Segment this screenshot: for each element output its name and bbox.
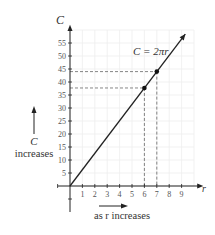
svg-text:as r increases: as r increases [94, 210, 150, 221]
y-tick-label: 5 [62, 169, 66, 178]
grid [70, 30, 194, 186]
r-increases-annotation: as r increases [94, 204, 150, 222]
y-tick-label: 45 [58, 65, 66, 74]
y-tick-label: 30 [58, 104, 66, 113]
circumference-chart: 123456789510152025303540455055 C r C = 2… [0, 0, 215, 235]
x-tick-label: 4 [118, 190, 122, 199]
y-tick-label: 40 [58, 78, 66, 87]
y-axis-arrow-icon [68, 25, 73, 31]
arrow-right-icon [121, 204, 128, 209]
equation-label: C = 2πr [133, 45, 169, 57]
y-tick-label: 35 [58, 91, 66, 100]
svg-text:increases: increases [15, 148, 53, 159]
y-tick-label: 20 [58, 130, 66, 139]
y-tick-label: 15 [58, 143, 66, 152]
x-tick-label: 8 [167, 190, 171, 199]
y-tick-label: 55 [58, 39, 66, 48]
x-tick-label: 6 [142, 190, 146, 199]
x-tick-label: 9 [180, 190, 184, 199]
svg-text:C: C [30, 135, 38, 147]
x-tick-label: 1 [80, 190, 84, 199]
x-tick-label: 7 [155, 190, 159, 199]
c-increases-annotation: C increases [15, 106, 53, 159]
arrow-up-icon [32, 106, 37, 113]
data-point [142, 86, 147, 91]
x-tick-label: 5 [130, 190, 134, 199]
y-tick-label: 10 [58, 156, 66, 165]
data-point [155, 69, 160, 74]
x-tick-label: 3 [105, 190, 109, 199]
x-tick-label: 2 [93, 190, 97, 199]
y-tick-label: 50 [58, 52, 66, 61]
y-tick-label: 25 [58, 117, 66, 126]
x-axis-label: r [202, 183, 206, 194]
y-axis-label: C [56, 13, 65, 27]
